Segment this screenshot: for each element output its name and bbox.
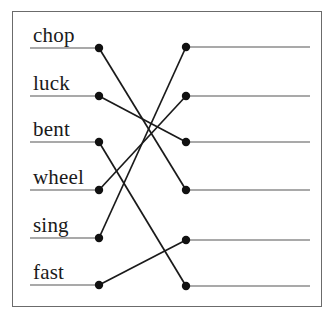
right-node-6[interactable] <box>182 282 190 290</box>
word-label-bent: bent <box>33 119 70 140</box>
word-label-wheel: wheel <box>33 167 84 188</box>
connector-sing[interactable] <box>99 47 186 238</box>
connector-bent[interactable] <box>99 142 186 286</box>
left-node-1[interactable] <box>95 44 103 52</box>
left-nodes-group <box>95 44 103 289</box>
right-rules-group <box>186 47 310 286</box>
right-node-4[interactable] <box>182 186 190 194</box>
connector-fast[interactable] <box>99 240 186 285</box>
left-node-6[interactable] <box>95 281 103 289</box>
word-label-chop: chop <box>33 25 75 46</box>
connector-luck[interactable] <box>99 96 186 142</box>
connector-lines-group <box>99 47 186 286</box>
right-nodes-group <box>182 43 190 290</box>
left-node-2[interactable] <box>95 92 103 100</box>
right-node-3[interactable] <box>182 138 190 146</box>
word-label-fast: fast <box>33 262 64 283</box>
matching-worksheet: chop luck bent wheel sing fast <box>0 0 333 316</box>
right-node-5[interactable] <box>182 236 190 244</box>
left-node-5[interactable] <box>95 234 103 242</box>
left-node-3[interactable] <box>95 138 103 146</box>
word-label-luck: luck <box>33 73 70 94</box>
right-node-1[interactable] <box>182 43 190 51</box>
right-node-2[interactable] <box>182 92 190 100</box>
left-node-4[interactable] <box>95 186 103 194</box>
word-label-sing: sing <box>33 215 69 236</box>
